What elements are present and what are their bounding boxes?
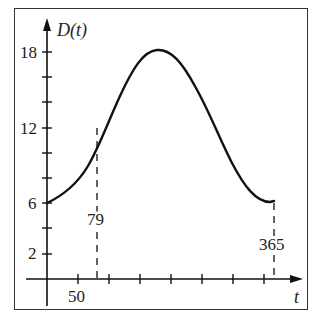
x-axis-arrow-icon [290, 275, 303, 283]
d-of-t-curve [47, 50, 274, 203]
y-tick-label-18: 18 [20, 43, 37, 62]
y-tick-label-6: 6 [28, 194, 37, 213]
chart-plot: D(t) t 18 12 6 2 50 79 365 [0, 0, 310, 319]
x-tick-label-50: 50 [68, 287, 85, 306]
x-axis-label: t [294, 287, 300, 307]
y-tick-label-2: 2 [28, 244, 37, 263]
y-tick-label-12: 12 [20, 119, 37, 138]
y-axis-arrow-icon [43, 18, 51, 31]
y-axis-label: D(t) [56, 20, 87, 41]
annotation-79: 79 [87, 210, 104, 229]
annotation-365: 365 [259, 235, 285, 254]
